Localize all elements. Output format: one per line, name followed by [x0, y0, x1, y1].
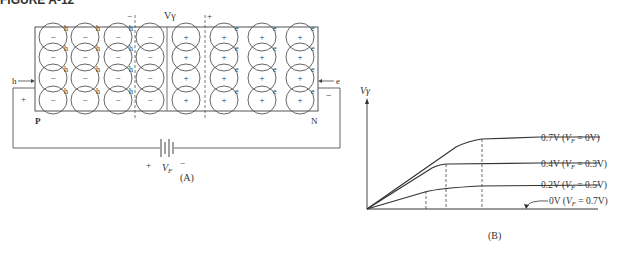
negative-charge-sign: −: [147, 95, 152, 105]
electron-label: e: [235, 24, 239, 33]
positive-charge-sign: +: [297, 32, 302, 42]
hole-label: h: [64, 87, 68, 96]
positive-charge-sign: +: [221, 32, 226, 42]
depletion-minus-sign: −: [127, 11, 132, 21]
p-region-label: P: [35, 116, 41, 126]
series-label-0-7V: 0.7V (VF = 0V): [541, 133, 600, 144]
positive-charge-sign: +: [221, 52, 226, 62]
n-region-label: N: [311, 116, 318, 126]
electron-label: e: [273, 87, 277, 96]
negative-charge-sign: −: [50, 73, 55, 83]
figure-title: FIGURE A-12: [0, 0, 75, 7]
positive-charge-sign: +: [297, 95, 302, 105]
positive-charge-sign: +: [221, 73, 226, 83]
hole-label: h: [96, 24, 100, 33]
electron-label: e: [235, 65, 239, 74]
electron-label: e: [273, 65, 277, 74]
negative-charge-sign: −: [50, 95, 55, 105]
positive-charge-sign: +: [259, 73, 264, 83]
battery-plus-sign: +: [146, 160, 151, 170]
y-axis-label: Vγ: [360, 85, 371, 96]
series-label-0-2V: 0.2V (VF = 0.5V): [541, 180, 607, 191]
hole-arrow-head-icon: [31, 79, 35, 83]
hole-label: h: [96, 87, 100, 96]
hole-label: h: [64, 44, 68, 53]
hole-label: h: [129, 65, 133, 74]
electron-label: e: [273, 44, 277, 53]
panel-a-label: (A): [180, 172, 194, 184]
right-terminal-sign: −: [326, 90, 332, 101]
series-label-0-4V: 0.4V (VF = 0.3V): [541, 159, 607, 170]
negative-charge-sign: −: [115, 95, 120, 105]
negative-charge-sign: −: [82, 73, 87, 83]
battery-minus-sign: −: [180, 158, 185, 168]
negative-charge-sign: −: [82, 52, 87, 62]
hole-label: h: [96, 65, 100, 74]
electron-label: e: [273, 24, 277, 33]
negative-charge-sign: −: [50, 52, 55, 62]
electron-label: e: [311, 65, 315, 74]
figure-canvas: FIGURE A-12 − Vγ + −h−h−h−++e+e+e−h−h−h−…: [0, 0, 624, 256]
hole-label: h: [64, 24, 68, 33]
negative-charge-sign: −: [147, 73, 152, 83]
ion-grid: −h−h−h−++e+e+e−h−h−h−++e+e+e−h−h−h−++e+e…: [39, 23, 315, 114]
negative-charge-sign: −: [82, 32, 87, 42]
pn-junction-diagram: − Vγ + −h−h−h−++e+e+e−h−h−h−++e+e+e−h−h−…: [12, 10, 340, 184]
hole-label: h: [129, 87, 133, 96]
electron-arrow-head-icon: [318, 79, 322, 83]
electron-label: e: [311, 24, 315, 33]
positive-charge-sign: +: [259, 32, 264, 42]
panel-b-label: (B): [488, 230, 501, 242]
y-axis-arrow-icon: [365, 98, 369, 104]
electron-label: e: [235, 44, 239, 53]
hole-arrow-label: h: [12, 76, 17, 86]
zero-curve-pointer: [527, 201, 548, 206]
negative-charge-sign: −: [82, 95, 87, 105]
hole-label: h: [64, 65, 68, 74]
negative-charge-sign: −: [147, 32, 152, 42]
positive-charge-sign: +: [297, 73, 302, 83]
electron-arrow-label: e: [336, 76, 340, 86]
electron-label: e: [311, 87, 315, 96]
left-terminal-sign: +: [21, 94, 26, 104]
barrier-voltage-chart: Vγ 0.7V (VF = 0V) 0.4V (VF = 0.3V) 0.2V …: [360, 85, 608, 242]
electron-label: e: [235, 87, 239, 96]
positive-charge-sign: +: [259, 52, 264, 62]
positive-charge-sign: +: [183, 95, 188, 105]
hole-label: h: [129, 24, 133, 33]
negative-charge-sign: −: [50, 32, 55, 42]
negative-charge-sign: −: [147, 52, 152, 62]
negative-charge-sign: −: [115, 73, 120, 83]
positive-charge-sign: +: [183, 73, 188, 83]
positive-charge-sign: +: [183, 32, 188, 42]
depletion-plus-sign: +: [207, 11, 212, 21]
depletion-voltage-label: Vγ: [164, 10, 176, 21]
positive-charge-sign: +: [221, 95, 226, 105]
electron-label: e: [311, 44, 315, 53]
positive-charge-sign: +: [259, 95, 264, 105]
battery-icon: [161, 139, 173, 157]
positive-charge-sign: +: [183, 52, 188, 62]
positive-charge-sign: +: [297, 52, 302, 62]
hole-label: h: [96, 44, 100, 53]
hole-label: h: [129, 44, 133, 53]
series-label-0V: 0V (VF = 0.7V): [549, 196, 608, 207]
negative-charge-sign: −: [115, 32, 120, 42]
battery-voltage-label: VF: [162, 162, 173, 175]
negative-charge-sign: −: [115, 52, 120, 62]
